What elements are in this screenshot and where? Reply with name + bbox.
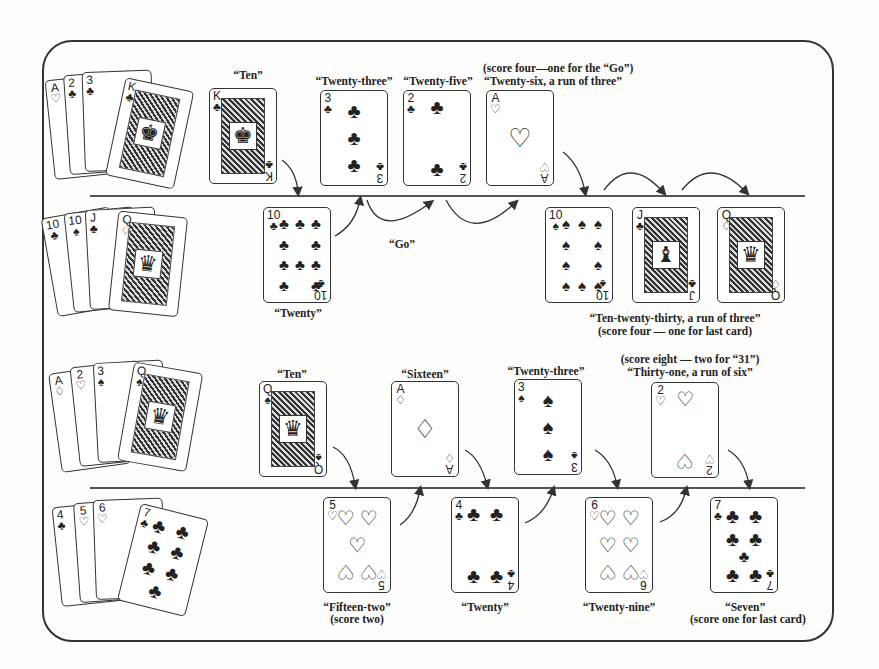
arrow-icon bbox=[335, 200, 360, 236]
arrow-icon bbox=[563, 152, 585, 192]
arrow-icon bbox=[728, 450, 749, 485]
arrow-icon bbox=[465, 450, 487, 485]
arrow-icon bbox=[525, 490, 553, 523]
arrow-icon bbox=[595, 450, 617, 485]
arrow-icon bbox=[333, 447, 355, 485]
arrow-icon bbox=[682, 173, 746, 192]
arrow-icon bbox=[282, 160, 298, 192]
flow-arrows bbox=[0, 0, 879, 669]
arrow-icon bbox=[367, 200, 430, 221]
arrow-icon bbox=[400, 490, 420, 525]
arrow-icon bbox=[660, 490, 686, 522]
arrow-icon bbox=[604, 173, 663, 192]
arrow-icon bbox=[446, 200, 515, 223]
